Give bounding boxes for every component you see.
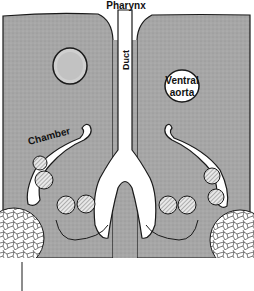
label-pharynx: Pharynx [106, 0, 146, 11]
label-ventral-aorta-2: aorta [170, 87, 195, 98]
label-duct: Duct [121, 50, 131, 70]
label-ventral-aorta-1: Ventral [165, 75, 199, 86]
pharynx-diagram: Pharynx Duct Ventral aorta Chamber [0, 0, 254, 291]
